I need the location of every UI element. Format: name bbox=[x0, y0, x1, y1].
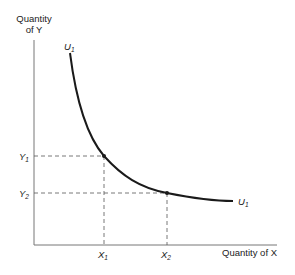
indifference-curve-chart: Quantity of Y Quantity of X U1 U1 Y1 Y2 … bbox=[0, 0, 295, 275]
dashed-guides bbox=[34, 156, 167, 245]
curve-label-right: U1 bbox=[238, 196, 249, 208]
point-2 bbox=[165, 191, 169, 195]
y-axis-label-line1: Quantity bbox=[16, 13, 52, 24]
y-tick-y2: Y2 bbox=[19, 188, 29, 200]
y-axis-label-line2: of Y bbox=[26, 24, 43, 35]
x-tick-x2: X2 bbox=[160, 249, 171, 261]
curve-label-top: U1 bbox=[64, 41, 75, 53]
y-tick-y1: Y1 bbox=[19, 151, 29, 163]
x-axis-label: Quantity of X bbox=[222, 247, 278, 258]
point-1 bbox=[102, 154, 106, 158]
indifference-curve-u1 bbox=[70, 53, 233, 201]
x-tick-x1: X1 bbox=[97, 249, 108, 261]
